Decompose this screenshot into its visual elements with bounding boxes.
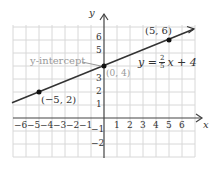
x-tick-neg3: −3 — [53, 121, 66, 130]
y-intercept-annotation: y-intercept — [30, 56, 85, 66]
y-tick-5: 5 — [96, 46, 102, 55]
equation-lhs: y = — [138, 57, 157, 68]
y-tick-neg2: −2 — [91, 139, 104, 148]
point-label-neg5-2: (−5, 2) — [41, 95, 76, 105]
y-tick-1: 1 — [96, 100, 102, 109]
coordinate-plane — [0, 0, 218, 170]
y-tick-2: 2 — [96, 87, 102, 96]
equation: y = 2 5 x + 4 — [138, 55, 197, 70]
x-tick-6: 6 — [179, 121, 185, 130]
x-tick-3: 3 — [140, 121, 146, 130]
fraction-denominator: 5 — [160, 63, 164, 70]
x-tick-neg1: −1 — [79, 121, 92, 130]
x-tick-4: 4 — [153, 121, 159, 130]
point-label-5-6: (5, 6) — [145, 26, 172, 36]
x-tick-2: 2 — [127, 121, 133, 130]
y-axis-label: y — [89, 8, 95, 18]
x-tick-neg2: −2 — [66, 121, 79, 130]
y-tick-6: 6 — [96, 33, 102, 42]
y-tick-neg1: −1 — [91, 125, 104, 134]
x-tick-neg5: −5 — [27, 121, 40, 130]
x-tick-1: 1 — [114, 121, 120, 130]
x-axis-label: x — [203, 120, 209, 130]
axes — [13, 14, 202, 158]
fraction: 2 5 — [159, 55, 165, 70]
x-tick-5: 5 — [166, 121, 172, 130]
equation-rhs: x + 4 — [167, 57, 196, 68]
point-5-6 — [167, 38, 172, 43]
x-tick-neg6: −6 — [14, 121, 27, 130]
point-label-0-4: (0, 4) — [106, 69, 130, 78]
x-tick-neg4: −4 — [40, 121, 53, 130]
y-tick-3: 3 — [96, 74, 102, 83]
